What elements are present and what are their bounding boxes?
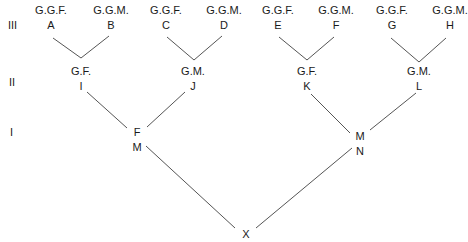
edge-line: [81, 36, 109, 58]
node-id: I: [71, 80, 91, 92]
node-role: G.G.M.: [206, 4, 241, 16]
edge-line: [256, 148, 352, 228]
edge-line: [53, 38, 81, 58]
node-role: G.M.: [407, 65, 431, 77]
edge-line: [419, 38, 446, 62]
node-M: FM: [132, 126, 141, 153]
generation-label: I: [10, 126, 13, 138]
node-H: G.G.M.H: [432, 4, 467, 31]
node-id: D: [206, 19, 241, 31]
node-I: G.F.I: [71, 65, 91, 92]
node-id: L: [407, 80, 431, 92]
node-F: G.G.M.F: [318, 4, 353, 31]
node-role: G.G.M.: [93, 4, 128, 16]
edge-line: [87, 92, 127, 128]
edge-line: [146, 146, 235, 228]
node-id: X: [242, 228, 249, 240]
node-role: M: [355, 130, 364, 142]
node-G: G.G.F.G: [376, 4, 408, 31]
node-role: G.F.: [71, 65, 91, 77]
edge-line: [370, 93, 416, 130]
node-id: J: [181, 80, 205, 92]
node-id: G: [376, 19, 408, 31]
node-id: F: [318, 19, 353, 31]
node-role: G.G.F.: [150, 4, 182, 16]
generation-label: III: [8, 19, 17, 31]
node-id: K: [297, 80, 317, 92]
node-B: G.G.M.B: [93, 4, 128, 31]
generation-label: II: [9, 76, 15, 88]
edge-line: [167, 37, 194, 60]
node-role: F: [132, 126, 141, 138]
node-id: H: [432, 19, 467, 31]
edge-line: [194, 36, 222, 60]
pedigree-lines: [0, 0, 468, 242]
node-role: G.M.: [181, 65, 205, 77]
node-role: G.G.F.: [262, 4, 294, 16]
node-E: G.G.F.E: [262, 4, 294, 31]
node-X: X: [242, 228, 249, 240]
node-id: M: [132, 141, 141, 153]
edge-line: [311, 94, 350, 133]
node-id: B: [93, 19, 128, 31]
node-A: G.G.F.A: [35, 4, 67, 31]
node-role: G.F.: [297, 65, 317, 77]
node-J: G.M.J: [181, 65, 205, 92]
edge-line: [147, 92, 185, 127]
node-D: G.G.M.D: [206, 4, 241, 31]
node-role: G.G.F.: [35, 4, 67, 16]
edge-line: [307, 37, 334, 60]
node-id: N: [355, 145, 364, 157]
node-id: C: [150, 19, 182, 31]
node-role: G.G.M.: [432, 4, 467, 16]
node-N: MN: [355, 130, 364, 157]
edge-line: [391, 38, 419, 62]
node-C: G.G.F.C: [150, 4, 182, 31]
node-role: G.G.M.: [318, 4, 353, 16]
node-id: A: [35, 19, 67, 31]
node-L: G.M.L: [407, 65, 431, 92]
node-K: G.F.K: [297, 65, 317, 92]
edge-line: [279, 37, 307, 60]
node-id: E: [262, 19, 294, 31]
node-role: G.G.F.: [376, 4, 408, 16]
